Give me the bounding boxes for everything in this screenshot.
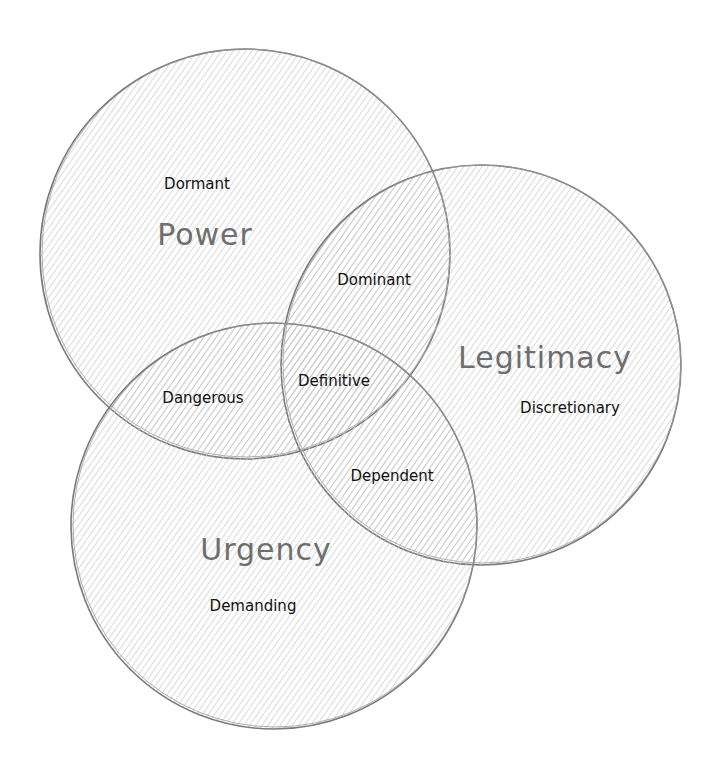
- region-label-definitive: Definitive: [298, 372, 370, 390]
- region-label-dormant: Dormant: [164, 175, 230, 193]
- region-label-dependent: Dependent: [350, 467, 433, 485]
- set-label-legitimacy: Legitimacy: [458, 340, 632, 375]
- set-label-urgency: Urgency: [200, 532, 332, 567]
- set-label-power: Power: [157, 217, 253, 252]
- region-label-dominant: Dominant: [337, 271, 411, 289]
- circle-urgency: [71, 323, 477, 729]
- region-label-demanding: Demanding: [210, 597, 297, 615]
- region-label-dangerous: Dangerous: [162, 389, 243, 407]
- region-label-discretionary: Discretionary: [520, 399, 620, 417]
